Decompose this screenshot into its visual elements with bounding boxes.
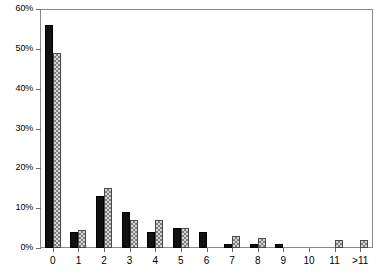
bar [104, 188, 112, 248]
x-axis-tick-mark [130, 248, 131, 252]
x-axis-tick-mark [53, 248, 54, 252]
bar [53, 53, 61, 248]
bar [258, 238, 266, 248]
bar [360, 240, 368, 248]
x-axis-tick-mark [207, 248, 208, 252]
bar [224, 244, 232, 248]
x-axis-tick-mark [232, 248, 233, 252]
x-axis-tick-mark [181, 248, 182, 252]
bar [155, 220, 163, 248]
bar [173, 228, 181, 248]
bar [70, 232, 78, 248]
bar [232, 236, 240, 248]
bar [181, 228, 189, 248]
bar [335, 240, 343, 248]
bar-chart: 0%10%20%30%40%50%60% 01234567891011>11 [0, 0, 384, 274]
bar [122, 212, 130, 248]
bar [78, 230, 86, 248]
bar [45, 25, 53, 248]
bar [199, 232, 207, 248]
x-axis-tick-mark [335, 248, 336, 252]
bar [130, 220, 138, 248]
bar [250, 244, 258, 248]
bar [96, 196, 104, 248]
x-axis-tick-mark [104, 248, 105, 252]
bars-layer [0, 0, 384, 274]
x-axis-tick-mark [309, 248, 310, 252]
x-axis-tick-label: >11 [340, 255, 380, 266]
bar [147, 232, 155, 248]
x-axis-tick-mark [283, 248, 284, 252]
x-axis-tick-mark [258, 248, 259, 252]
x-axis-tick-mark [360, 248, 361, 252]
x-axis-tick-mark [78, 248, 79, 252]
x-axis-tick-mark [155, 248, 156, 252]
